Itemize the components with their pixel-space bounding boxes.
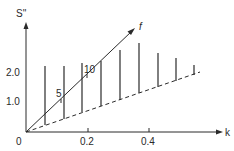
x-axis-arrow-icon [216,130,223,135]
marker-10-label: 10 [84,64,96,75]
f-label: f [139,21,143,32]
x-axis-label: k [225,127,231,138]
diagram: S'' k 0 0.2 0.4 2.0 1.0 f 5 10 [0,0,234,151]
marker-5-label: 5 [56,88,62,99]
x-tick-label-0.2: 0.2 [80,136,94,147]
f-line [26,31,132,132]
y-axis-label: S'' [16,8,27,19]
x-tick-label-0.4: 0.4 [141,136,155,147]
vertical-stems [45,43,194,125]
origin-label: 0 [16,136,22,147]
y-tick-label-2.0: 2.0 [6,67,20,78]
y-axis-arrow-icon [24,22,29,29]
y-tick-label-1.0: 1.0 [6,96,20,107]
dashed-baseline [26,72,200,132]
